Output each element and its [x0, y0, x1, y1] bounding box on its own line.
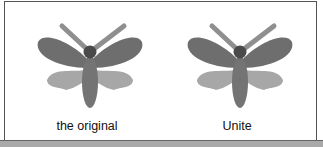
caption-original: the original	[12, 119, 162, 133]
moth-icon	[12, 0, 162, 120]
moth-icon	[162, 0, 312, 120]
bottom-band	[0, 140, 323, 147]
panel-original: the original	[12, 0, 162, 140]
panel-unite: Unite	[162, 0, 312, 140]
caption-unite: Unite	[162, 119, 312, 133]
